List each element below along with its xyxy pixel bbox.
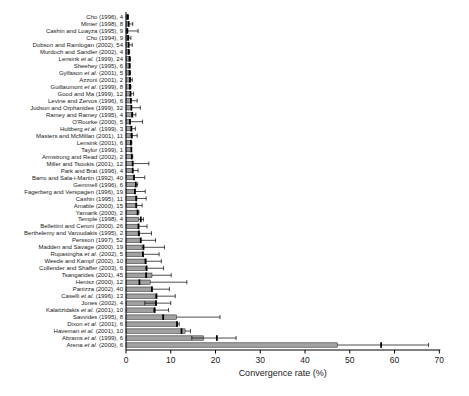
study-bar	[126, 343, 337, 347]
estimate-marker	[156, 293, 158, 299]
estimate-marker	[140, 238, 142, 244]
study-label: Minier (1998), 8	[81, 21, 124, 27]
study-label: Berthelemy and Varoudakis (1995), 2	[24, 230, 124, 236]
study-bar	[126, 189, 135, 193]
study-bar	[126, 217, 139, 221]
x-tick-label: 60	[390, 355, 400, 365]
study-label: Ramey and Ramey (1995), 4	[46, 112, 124, 118]
estimate-marker	[162, 314, 164, 320]
study-bar	[126, 99, 130, 103]
study-bar	[126, 273, 152, 277]
estimate-marker	[145, 258, 147, 264]
estimate-marker	[137, 210, 139, 216]
study-label: Dobson and Ramlogan (2002), 54	[33, 42, 124, 48]
estimate-marker	[142, 251, 144, 257]
estimate-marker	[128, 49, 130, 55]
estimate-marker	[130, 147, 132, 153]
estimate-marker	[176, 321, 178, 327]
estimate-marker	[129, 119, 131, 125]
x-tick-label: 70	[435, 355, 445, 365]
study-label: Tsangarides (2001), 45	[62, 272, 124, 278]
estimate-marker	[145, 272, 147, 278]
study-bar	[126, 224, 138, 228]
estimate-marker	[135, 203, 137, 209]
study-bar	[126, 322, 177, 326]
study-label: Cashin (1995), 11	[76, 196, 124, 202]
study-bar	[126, 280, 150, 284]
estimate-marker	[380, 342, 382, 348]
estimate-marker	[130, 105, 132, 111]
study-label: Lensink (2001), 6	[77, 140, 124, 146]
study-label: Panizza (2002), 40	[73, 286, 124, 292]
study-bar	[126, 161, 132, 165]
study-label: Azzoni (2001), 2	[79, 77, 123, 83]
study-bar	[126, 140, 130, 144]
x-tick-label: 20	[211, 355, 221, 365]
x-tick-label: 50	[345, 355, 355, 365]
study-label: Sheehey (1995), 6	[74, 63, 124, 69]
study-label: Gemmell (1996), 6	[73, 182, 123, 188]
estimate-marker	[134, 189, 136, 195]
study-bar	[126, 287, 152, 291]
study-label: Cho (1994), 9	[86, 35, 123, 41]
estimate-marker	[135, 182, 137, 188]
study-label: Jones (2002), 4	[81, 300, 123, 306]
study-label: Masters and McMillan (2001), 11	[36, 133, 124, 139]
study-label: Cashin and Loayza (1995), 9	[46, 28, 124, 34]
estimate-marker	[154, 307, 156, 313]
estimate-marker	[131, 133, 133, 139]
study-label: Arena et al. (2000), 6	[67, 342, 124, 348]
estimate-marker	[129, 77, 131, 83]
study-label: Miller and Tsoukis (2001), 12	[46, 161, 123, 167]
estimate-marker	[132, 168, 134, 174]
study-label: Henisz (2000), 12	[76, 279, 124, 285]
study-bar	[126, 294, 156, 298]
estimate-marker	[155, 300, 157, 306]
study-bar	[126, 266, 145, 270]
study-bar	[126, 210, 137, 214]
estimate-marker	[133, 175, 135, 181]
study-label: Hultberg et al. (1999), 3	[60, 126, 124, 132]
study-bar	[126, 203, 136, 207]
study-label: Amable (2000), 15	[74, 203, 124, 209]
study-label: Cho (1996), 4	[86, 14, 123, 20]
x-axis-title: Convergence rate (%)	[239, 368, 327, 378]
study-label: Park and Brat (1996), 4	[61, 168, 124, 174]
estimate-marker	[139, 279, 141, 285]
estimate-marker	[143, 245, 145, 251]
study-label: Rupasingha et al. (2002), 5	[51, 251, 124, 257]
estimate-marker	[129, 63, 131, 69]
study-label: Savvides (1995), 8	[73, 314, 124, 320]
estimate-marker	[132, 161, 134, 167]
study-bar	[126, 113, 132, 117]
estimate-marker	[131, 112, 133, 118]
estimate-marker	[151, 286, 153, 292]
study-bar	[126, 329, 185, 333]
study-bar	[126, 315, 177, 319]
study-label: Fagerberg and Verspagen (1996), 19	[24, 189, 123, 195]
study-bar	[126, 308, 154, 312]
study-bar	[126, 133, 130, 137]
study-bar	[126, 78, 130, 82]
study-label: Levine and Zervos (1996), 6	[48, 98, 124, 104]
study-label: Persson (1997), 52	[72, 237, 124, 243]
study-label: Lensink et al. (1999), 24	[59, 56, 124, 62]
study-label: Collender and Shaffer (2003), 6	[39, 265, 124, 271]
study-label: Murdoch and Sandler (2002), 4	[40, 49, 124, 55]
estimate-marker	[127, 35, 129, 41]
estimate-marker	[130, 140, 132, 146]
estimate-marker	[129, 56, 131, 62]
study-bar	[126, 182, 135, 186]
estimate-marker	[127, 14, 129, 20]
estimate-marker	[216, 335, 218, 341]
study-label: Dixon et al. (2001), 6	[67, 321, 123, 327]
x-tick-label: 0	[124, 355, 129, 365]
study-bar	[126, 238, 140, 242]
estimate-marker	[146, 265, 148, 271]
study-label: Good and Ma (1999), 12	[58, 91, 124, 97]
estimate-marker	[181, 328, 183, 334]
x-tick-label: 40	[300, 355, 310, 365]
study-label: Madden and Savage (2000), 19	[39, 244, 124, 250]
study-label: Gylfason et al. (2001), 5	[59, 70, 124, 76]
figure-page: Cho (1996), 4Minier (1998), 8Cashin and …	[0, 0, 469, 396]
